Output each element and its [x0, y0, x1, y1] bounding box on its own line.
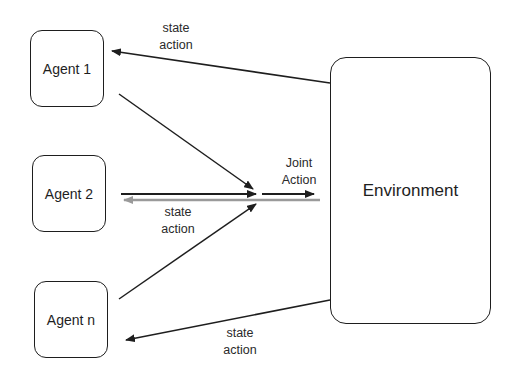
middle-feedback-line2: action [152, 221, 204, 238]
top-feedback-label: state action [150, 20, 202, 54]
top-feedback-line1: state [150, 20, 202, 37]
agent-1-label: Agent 1 [43, 61, 91, 77]
agent-2-label: Agent 2 [45, 186, 93, 202]
agent-2-node: Agent 2 [32, 155, 106, 232]
joint-action-line2: Action [276, 172, 322, 189]
middle-feedback-line1: state [152, 204, 204, 221]
agent-1-node: Agent 1 [30, 30, 104, 107]
top-feedback-line2: action [150, 37, 202, 54]
agent-n-label: Agent n [47, 312, 95, 328]
bottom-feedback-line2: action [214, 342, 266, 359]
joint-action-label: Joint Action [276, 155, 322, 189]
bottom-feedback-line1: state [214, 325, 266, 342]
environment-label: Environment [363, 181, 458, 201]
arrow-agent-1-to-hub [119, 94, 253, 189]
joint-action-line1: Joint [276, 155, 322, 172]
arrow-env-to-agent-1 [112, 51, 330, 83]
environment-node: Environment [330, 57, 491, 324]
bottom-feedback-label: state action [214, 325, 266, 359]
middle-feedback-label: state action [152, 204, 204, 238]
agent-n-node: Agent n [34, 281, 108, 358]
